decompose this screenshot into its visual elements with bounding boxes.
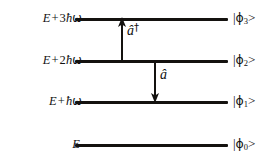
energy-plus-sign: +: [50, 11, 59, 25]
phi-symbol: ϕ: [236, 10, 244, 25]
energy-plus-sign: +: [57, 94, 66, 108]
ket-close-icon: >: [248, 136, 255, 151]
ket-close-icon: >: [248, 10, 255, 25]
level-line-3: [75, 18, 228, 21]
energy-base-symbol: E: [49, 94, 57, 108]
ket-label-level-0: |ϕ0>: [233, 136, 255, 152]
creation-operator-label: â†: [127, 22, 139, 39]
dagger-symbol: †: [134, 22, 139, 33]
phi-symbol: ϕ: [236, 52, 244, 67]
ket-label-level-3: |ϕ3>: [233, 10, 255, 26]
phi-symbol: ϕ: [236, 136, 244, 151]
operator-a-hat-symbol: â: [127, 23, 134, 38]
ket-label-level-1: |ϕ1>: [233, 93, 255, 109]
ket-close-icon: >: [248, 52, 255, 67]
ket-label-level-2: |ϕ2>: [233, 52, 255, 68]
operator-a-hat-symbol: â: [160, 67, 167, 82]
ket-close-icon: >: [248, 93, 255, 108]
energy-plus-sign: +: [50, 53, 59, 67]
phi-symbol: ϕ: [236, 93, 244, 108]
energy-level-diagram: E+3ħω |ϕ3> E+2ħω |ϕ2> E+ħω |ϕ1> E |ϕ0> a…: [0, 0, 280, 161]
level-line-0: [75, 144, 228, 147]
annihilation-operator-label: â: [160, 66, 167, 83]
